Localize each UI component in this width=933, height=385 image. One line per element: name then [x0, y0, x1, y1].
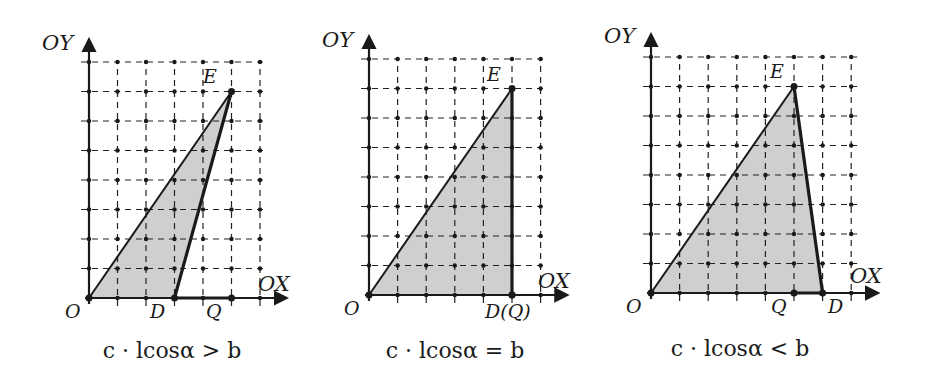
grid-node [144, 178, 148, 182]
grid-node [481, 175, 485, 179]
grid-node [538, 234, 542, 238]
point-d-label: D [827, 295, 843, 317]
grid-node [706, 114, 710, 118]
grid-node [820, 202, 824, 206]
caption-greater: c · lcosα > b [103, 338, 242, 363]
grid-node [792, 232, 796, 236]
grid-node [849, 114, 853, 118]
grid-node [424, 234, 428, 238]
point-e-label: E [486, 63, 501, 85]
grid-node [849, 55, 853, 59]
grid-node [395, 234, 399, 238]
grid-node [763, 84, 767, 88]
grid-node [763, 202, 767, 206]
grid-node [792, 114, 796, 118]
grid-node [395, 175, 399, 179]
grid-node [453, 145, 457, 149]
origin-label: O [626, 295, 642, 317]
grid-node [144, 207, 148, 211]
grid-node [735, 232, 739, 236]
y-axis-label: OY [42, 31, 75, 55]
grid-node [424, 86, 428, 90]
grid-node [258, 207, 262, 211]
caption-equal: c · lcosα = b [386, 338, 525, 363]
grid-node [115, 119, 119, 123]
grid-node [201, 60, 205, 64]
grid-node [395, 145, 399, 149]
grid-node [792, 173, 796, 177]
point-e [228, 88, 235, 95]
grid-node [201, 148, 205, 152]
point-q-label: Q [206, 300, 222, 322]
grid-node [849, 173, 853, 177]
grid-node [677, 173, 681, 177]
x-axis-label: OX [258, 272, 291, 296]
grid-node [820, 143, 824, 147]
origin-label: O [65, 300, 81, 322]
grid-node [735, 261, 739, 265]
grid-node [115, 148, 119, 152]
grid-node [706, 261, 710, 265]
grid-node [849, 202, 853, 206]
grid-node [538, 116, 542, 120]
grid-node [453, 263, 457, 267]
grid-node [481, 116, 485, 120]
point-o [648, 290, 655, 297]
grid-node [820, 261, 824, 265]
grid-node [706, 202, 710, 206]
grid-node [677, 202, 681, 206]
grid-node [144, 89, 148, 93]
grid-node [144, 148, 148, 152]
grid-node [763, 55, 767, 59]
grid-node [735, 114, 739, 118]
grid-node [172, 207, 176, 211]
grid-node [258, 119, 262, 123]
grid-node [144, 60, 148, 64]
origin-label: O [344, 297, 360, 319]
grid-node [763, 173, 767, 177]
grid-node [820, 114, 824, 118]
grid-node [453, 116, 457, 120]
grid-node [201, 237, 205, 241]
grid-node [395, 57, 399, 61]
point-q-label: Q [771, 295, 787, 317]
grid-node [453, 175, 457, 179]
grid-node [792, 261, 796, 265]
grid-node [424, 116, 428, 120]
grid-node [453, 234, 457, 238]
grid-node [201, 207, 205, 211]
grid-node [258, 89, 262, 93]
grid-node [115, 237, 119, 241]
grid-node [424, 175, 428, 179]
panel-greater [81, 40, 286, 306]
grid-node [763, 261, 767, 265]
point-e-label: E [202, 65, 217, 87]
point-e-label: E [769, 60, 784, 82]
grid-node [706, 232, 710, 236]
point-q [509, 292, 516, 299]
grid-node [849, 232, 853, 236]
grid-node [424, 263, 428, 267]
grid-node [144, 119, 148, 123]
grid-node [172, 119, 176, 123]
point-e [509, 85, 516, 92]
grid-node [481, 204, 485, 208]
grid-node [510, 57, 514, 61]
grid-node [538, 145, 542, 149]
grid-node [735, 55, 739, 59]
grid-node [706, 84, 710, 88]
grid-node [115, 266, 119, 270]
grid-node [229, 266, 233, 270]
grid-node [735, 202, 739, 206]
grid-node [453, 57, 457, 61]
grid-node [395, 263, 399, 267]
grid-node [229, 178, 233, 182]
grid-node [172, 237, 176, 241]
grid-node [115, 178, 119, 182]
grid-node [849, 84, 853, 88]
grid-node [792, 143, 796, 147]
grid-node [763, 114, 767, 118]
panel-less [643, 35, 877, 301]
grid-node [115, 89, 119, 93]
grid-node [706, 173, 710, 177]
